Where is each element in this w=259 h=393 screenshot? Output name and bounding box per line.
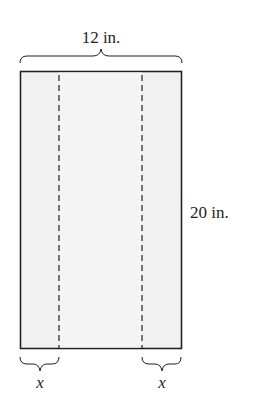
left-bottom-brace: [20, 357, 59, 371]
top-brace: [20, 49, 182, 63]
right-strip-label: x: [157, 373, 166, 392]
rectangle-diagram: 12 in. 20 in. x x: [0, 0, 259, 393]
left-strip-label: x: [35, 373, 44, 392]
width-label: 12 in.: [82, 28, 121, 47]
right-bottom-brace: [142, 357, 181, 371]
center-region: [59, 72, 142, 348]
height-label: 20 in.: [190, 203, 229, 222]
